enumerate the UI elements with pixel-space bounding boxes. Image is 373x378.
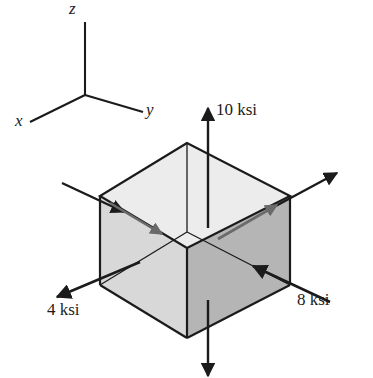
axis-label-z: z — [69, 0, 76, 19]
axis-x-line — [30, 95, 85, 122]
stress-label-10ksi: 10 ksi — [216, 100, 257, 120]
stress-label-4ksi: 4 ksi — [47, 300, 80, 320]
axis-y-line — [85, 95, 143, 112]
coordinate-axes — [30, 22, 143, 122]
stress-label-8ksi: 8 ksi — [297, 290, 330, 310]
stress-element-figure — [0, 0, 373, 378]
stress-arrow-upper-right — [272, 173, 337, 208]
axis-label-y: y — [146, 100, 154, 120]
axis-label-x: x — [15, 111, 23, 131]
arrow-shear-upper-right — [272, 173, 337, 208]
